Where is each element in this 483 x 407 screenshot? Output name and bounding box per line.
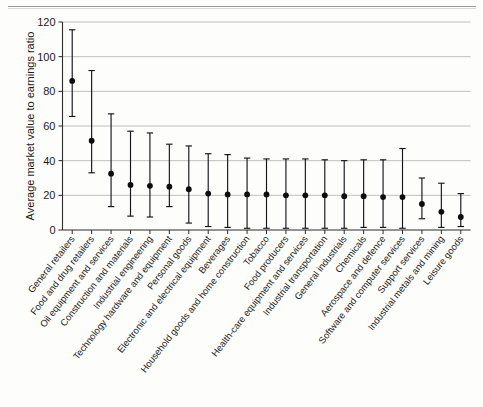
data-point-group <box>322 160 328 228</box>
data-point-marker <box>302 192 308 198</box>
data-point-marker <box>147 183 153 189</box>
chart-plot-area: 020406080100120Average market value to e… <box>0 0 483 407</box>
figure-root: 020406080100120Average market value to e… <box>0 0 483 407</box>
data-point-marker <box>322 192 328 198</box>
data-point-marker <box>419 201 425 207</box>
data-point-group <box>341 161 347 229</box>
data-point-group <box>283 159 289 228</box>
data-point-group <box>205 154 211 227</box>
data-point-marker <box>264 192 270 198</box>
y-tick-label: 40 <box>43 155 55 167</box>
data-point-group <box>224 155 230 228</box>
data-point-marker <box>361 193 367 199</box>
data-point-group <box>263 159 269 228</box>
data-point-marker <box>458 214 464 220</box>
data-point-marker <box>128 182 134 188</box>
data-point-group <box>380 160 386 228</box>
y-tick-label: 80 <box>43 85 55 97</box>
y-tick-label: 100 <box>37 51 55 63</box>
y-tick-label: 20 <box>43 189 55 201</box>
data-point-marker <box>380 194 386 200</box>
data-point-group <box>360 160 366 228</box>
data-point-group <box>69 30 75 117</box>
data-point-group <box>88 71 94 173</box>
data-point-marker <box>89 138 95 144</box>
data-point-marker <box>166 184 172 190</box>
data-point-marker <box>400 194 406 200</box>
y-tick-label: 0 <box>49 224 55 236</box>
data-point-group <box>127 131 133 216</box>
data-point-marker <box>341 193 347 199</box>
data-point-group <box>147 133 153 217</box>
data-point-group <box>438 183 444 227</box>
data-point-marker <box>283 192 289 198</box>
data-point-group <box>244 158 250 228</box>
data-point-group <box>186 146 192 223</box>
data-point-marker <box>244 192 250 198</box>
data-point-marker <box>225 192 231 198</box>
y-tick-label: 60 <box>43 120 55 132</box>
data-point-marker <box>205 191 211 197</box>
y-axis-title: Average market value to earnings ratio <box>24 32 36 221</box>
error-bar-chart: 020406080100120Average market value to e… <box>0 0 483 407</box>
data-point-group <box>302 159 308 228</box>
data-point-marker <box>438 209 444 215</box>
data-point-group <box>419 178 425 219</box>
data-point-marker <box>69 78 75 84</box>
data-point-group <box>166 144 172 206</box>
data-point-marker <box>108 171 114 177</box>
y-tick-label: 120 <box>37 16 55 28</box>
data-point-marker <box>186 186 192 192</box>
data-point-group <box>458 194 464 227</box>
